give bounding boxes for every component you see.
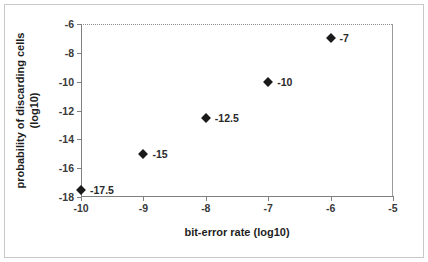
x-tick-mark [331,196,332,201]
data-point-label: -10 [277,76,292,87]
x-tick-label: -5 [388,203,397,214]
plot-right-border [392,24,393,197]
plot-top-border [81,24,393,25]
data-point-marker [326,33,336,43]
y-tick-label: -10 [59,76,74,87]
x-tick-label: -8 [201,203,210,214]
plot-area: -18-16-14-12-10-8-6 -10-9-8-7-6-5 -17.5-… [81,24,393,197]
data-point-label: -17.5 [90,185,114,196]
x-tick-mark [81,196,82,201]
x-axis-line [81,196,393,197]
x-axis-title: bit-error rate (log10) [81,226,393,238]
data-point-marker [201,113,211,123]
chart-figure: -18-16-14-12-10-8-6 -10-9-8-7-6-5 -17.5-… [0,0,428,262]
data-point-marker [138,149,148,159]
x-tick-mark [393,196,394,201]
y-tick-label: -18 [59,192,74,203]
y-tick-mark [77,24,82,25]
y-tick-label: -16 [59,163,74,174]
x-tick-label: -7 [264,203,273,214]
data-point-marker [76,185,86,195]
x-tick-mark [143,196,144,201]
data-point-label: -15 [152,149,167,160]
y-tick-mark [77,111,82,112]
y-tick-label: -6 [65,19,74,30]
y-tick-mark [77,53,82,54]
y-tick-label: -14 [59,134,74,145]
data-point-label: -7 [340,33,349,44]
x-tick-mark [268,196,269,201]
x-tick-mark [206,196,207,201]
x-tick-label: -10 [73,203,88,214]
y-tick-label: -12 [59,105,74,116]
data-point-label: -12.5 [215,112,239,123]
y-axis-title: probability of discarding cells (log10) [14,24,60,197]
y-tick-mark [77,139,82,140]
y-tick-label: -8 [65,48,74,59]
x-tick-label: -9 [139,203,148,214]
y-tick-mark [77,82,82,83]
data-point-marker [263,77,273,87]
x-tick-label: -6 [326,203,335,214]
y-tick-mark [77,168,82,169]
